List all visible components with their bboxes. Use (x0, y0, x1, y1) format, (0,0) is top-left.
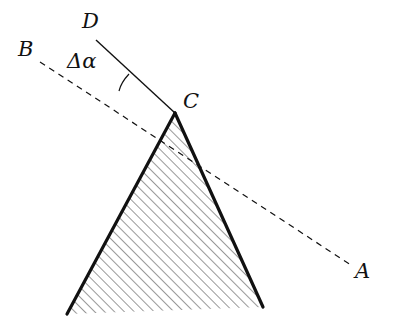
angle-arc-delta-alpha (119, 74, 129, 91)
solid-line-d-c (96, 40, 175, 113)
diagram-canvas (0, 0, 396, 328)
point-label-a: A (355, 261, 370, 282)
angle-label-delta-alpha: Δα (67, 51, 96, 72)
hatched-triangle-body (67, 113, 263, 314)
point-label-d: D (82, 11, 99, 32)
point-label-c: C (183, 91, 199, 112)
point-label-b: B (18, 39, 33, 60)
